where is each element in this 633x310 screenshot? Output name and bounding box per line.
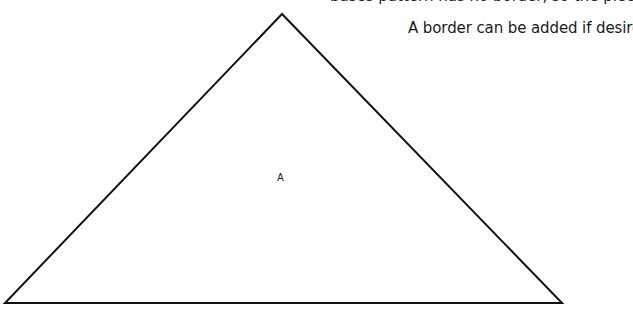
triangle-label: A (277, 172, 284, 184)
triangle-outline (5, 14, 562, 303)
triangle-pattern-figure (0, 0, 633, 310)
